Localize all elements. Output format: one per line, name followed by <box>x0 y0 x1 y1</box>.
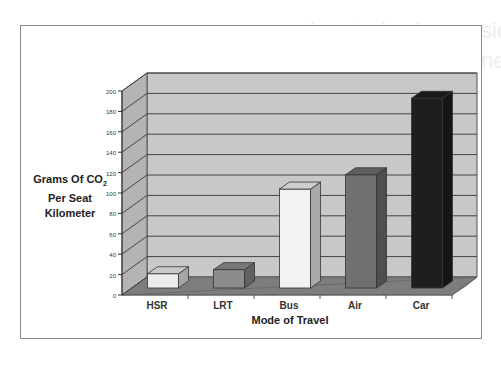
bar-air-front <box>346 175 377 288</box>
y-tick-label: 60 <box>109 232 116 238</box>
x-tick-label-bus: Bus <box>280 300 299 311</box>
y-axis-label-line-1: Grams Of CO <box>33 173 103 185</box>
bar-lrt-front <box>214 270 245 288</box>
y-tick-label: 160 <box>106 130 117 136</box>
y-tick-label: 180 <box>106 109 117 115</box>
bar-hsr-front <box>148 274 179 288</box>
y-tick-label: 40 <box>109 252 116 258</box>
x-tick-label-car: Car <box>413 300 430 311</box>
bar-air-side <box>377 168 387 288</box>
y-axis-label-line-3: Kilometer <box>30 206 110 221</box>
y-axis-label-subscript: 2 <box>103 180 107 187</box>
y-tick-label: 20 <box>109 273 116 279</box>
y-tick-label: 0 <box>113 293 117 299</box>
bar-bus-front <box>280 189 311 288</box>
x-tick-label-lrt: LRT <box>213 300 232 311</box>
y-axis-label-line-2: Per Seat <box>30 191 110 206</box>
bar-car-side <box>443 91 453 288</box>
y-axis-label: Grams Of CO2 Per Seat Kilometer <box>30 172 110 221</box>
x-axis-title: Mode of Travel <box>230 314 350 326</box>
y-tick-label: 140 <box>106 150 117 156</box>
x-tick-label-air: Air <box>348 300 362 311</box>
y-tick-label: 200 <box>106 89 117 95</box>
x-tick-label-hsr: HSR <box>146 300 168 311</box>
y-tick-label: 80 <box>109 211 116 217</box>
bar-car-front <box>412 98 443 288</box>
bar-bus-side <box>311 182 321 288</box>
